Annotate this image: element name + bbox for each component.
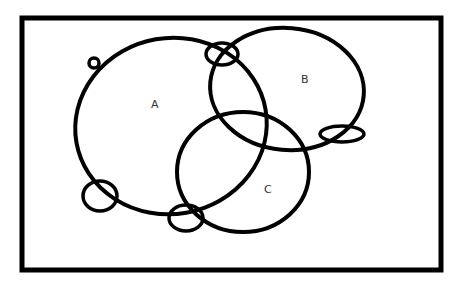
- set-label-b: B: [301, 73, 309, 86]
- set-label-a: A: [151, 98, 159, 111]
- set-label-c: C: [264, 183, 272, 196]
- set-a-ellipse: [61, 23, 281, 230]
- labels-group: A B C: [151, 73, 309, 196]
- set-c-ellipse: [177, 112, 309, 232]
- loop-top-left: [89, 58, 99, 68]
- sets-group: [61, 22, 369, 232]
- set-b-ellipse: [205, 22, 369, 157]
- venn-diagram: A B C: [0, 0, 464, 289]
